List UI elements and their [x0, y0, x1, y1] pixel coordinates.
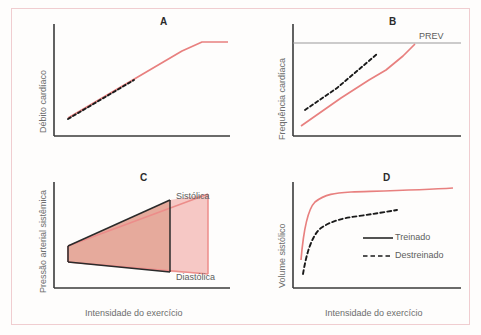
panel-b-prev-label: PREV	[419, 31, 444, 41]
panel-c-letter: C	[140, 172, 148, 183]
panel-b: B PREV	[281, 18, 463, 148]
figure-container: A Débito cardíaco B PREV Frequência card…	[0, 0, 481, 335]
panel-a: A	[42, 18, 232, 148]
panel-a-letter: A	[160, 16, 168, 27]
panel-c-diastolic-label: Diastólica	[176, 272, 215, 282]
panel-d-plot	[281, 176, 463, 301]
panel-a-untrained-curve	[68, 80, 134, 119]
panel-d-legend-label-untrained: Destreinado	[395, 250, 444, 260]
panel-a-trained-curve	[68, 42, 228, 118]
panel-c-x-label: Intensidade do exercício	[85, 308, 183, 318]
panel-d: D Treinado Destreinado	[281, 176, 463, 301]
panel-d-x-label: Intensidade do exercício	[325, 308, 423, 318]
panel-c-systolic-label: Sistólica	[176, 191, 210, 201]
panel-c-untrained-wedge-fill	[68, 200, 170, 272]
panel-b-y-label: Frequência cardíaca	[277, 58, 287, 140]
panel-c-y-label: Pressão arterial sistêmica	[38, 190, 48, 293]
panel-d-untrained-curve	[303, 210, 397, 274]
panel-d-y-label: Volume sistólico	[277, 223, 287, 288]
panel-a-plot	[42, 18, 232, 148]
panel-b-trained-curve	[301, 44, 415, 126]
panel-d-letter: D	[383, 172, 391, 183]
panel-b-letter: B	[389, 16, 397, 27]
panel-d-legend-label-trained: Treinado	[395, 232, 430, 242]
panel-a-y-label: Débito cardíaco	[38, 70, 48, 133]
